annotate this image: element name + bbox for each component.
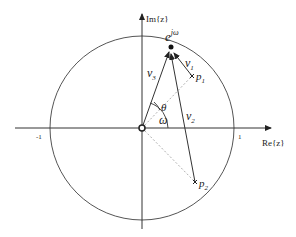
vector-v1-label: v1 <box>185 56 194 72</box>
origin-to-p2-dashed <box>142 128 195 182</box>
real-axis-label: Re{z} <box>262 138 285 148</box>
zplane-diagram: Im{z} Re{z} -1 1 ejω p1 p2 v1 v2 v3 θ ω <box>0 0 296 237</box>
pole-p1-marker <box>190 74 194 78</box>
pole-p1-label: p1 <box>195 70 205 85</box>
tick-label-pos-one: 1 <box>238 133 242 141</box>
omega-label: ω <box>159 113 167 127</box>
zero-origin-marker <box>139 125 145 131</box>
unit-point-label: ejω <box>165 28 179 44</box>
unit-point-marker <box>169 45 174 50</box>
theta-label: θ <box>161 101 167 113</box>
zplane-svg: Im{z} Re{z} -1 1 ejω p1 p2 v1 v2 v3 θ ω <box>0 0 296 237</box>
tick-label-neg-one: -1 <box>36 133 42 141</box>
vector-v3-label: v3 <box>147 66 156 82</box>
imag-axis-label: Im{z} <box>146 14 169 24</box>
vector-v2-label: v2 <box>186 109 195 125</box>
pole-p2-label: p2 <box>198 177 209 192</box>
